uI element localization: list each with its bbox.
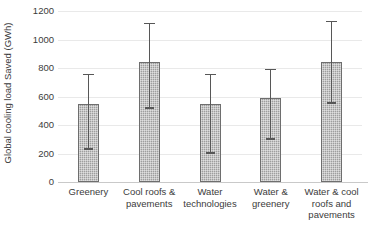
y-axis-tick-label: 200 [18,149,54,159]
error-bar-stem [88,75,89,150]
error-bar-cap-lower [266,138,275,140]
error-bar-cap-upper [83,74,94,75]
x-axis-tick-label: Cool roofs & pavements [119,186,180,209]
error-bar-cap-upper [265,69,276,70]
error-bar-cap-lower [84,148,93,150]
error-bar-cap-lower [145,107,154,109]
error-bar-cap-upper [144,23,155,24]
y-axis-tick-label: 800 [18,63,54,73]
bar-group[interactable] [139,11,160,182]
error-bar-stem [210,75,211,154]
y-axis-tick-labels: 020040060080010001200 [16,0,54,243]
x-axis-tick-label: Greenery [58,186,119,198]
error-bar-cap-lower [327,102,336,104]
y-axis-title: Global cooling load Saved (GWh) [0,0,16,186]
x-axis-tick-labels: GreeneryCool roofs & pavementsWater tech… [58,186,362,241]
bar-chart: Global cooling load Saved (GWh) 02004006… [0,0,388,243]
bar-group[interactable] [321,11,342,182]
bar-group[interactable] [200,11,221,182]
y-axis-tick-label: 600 [18,92,54,102]
error-bar-cap-lower [206,152,215,154]
y-axis-tick-label: 0 [18,177,54,187]
error-bar-stem [149,24,150,109]
plot-area [58,11,362,182]
y-axis-tick-label: 1000 [18,35,54,45]
bar-group[interactable] [260,11,281,182]
x-axis-line [58,182,368,183]
x-axis-tick-label: Water & cool roofs and pavements [301,186,362,221]
y-axis-tick-label: 1200 [18,6,54,16]
error-bar-cap-upper [326,21,337,22]
error-bar-stem [331,22,332,105]
y-axis-tick-label: 400 [18,120,54,130]
error-bar-stem [270,70,271,140]
bar-group[interactable] [78,11,99,182]
x-axis-tick-label: Water technologies [180,186,241,209]
error-bar-cap-upper [205,74,216,75]
x-axis-tick-label: Water & greenery [240,186,301,209]
